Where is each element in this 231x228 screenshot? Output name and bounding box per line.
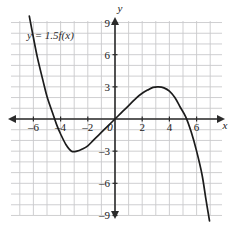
x-tick-label: 2 bbox=[139, 121, 145, 133]
x-tick-label: –2 bbox=[81, 121, 93, 133]
equation-annotation: y = 1.5f(x) bbox=[26, 29, 74, 42]
y-tick-label: –6 bbox=[98, 177, 111, 189]
x-tick-label: 4 bbox=[167, 121, 173, 133]
y-tick-label: 9 bbox=[105, 17, 111, 29]
function-graph: –6–4–20246 963–3–6–9 x y y = 1.5f(x) bbox=[0, 0, 231, 228]
y-tick-label: 6 bbox=[105, 49, 111, 61]
x-tick-label: –6 bbox=[27, 121, 40, 133]
graph-svg: –6–4–20246 963–3–6–9 x y y = 1.5f(x) bbox=[0, 0, 231, 228]
y-tick-label: –3 bbox=[98, 145, 111, 157]
x-tick-label: 6 bbox=[194, 121, 200, 133]
x-axis-label: x bbox=[222, 119, 228, 131]
y-axis-label: y bbox=[117, 2, 123, 14]
y-tick-label: –9 bbox=[98, 209, 111, 221]
y-tick-label: 3 bbox=[105, 81, 111, 93]
